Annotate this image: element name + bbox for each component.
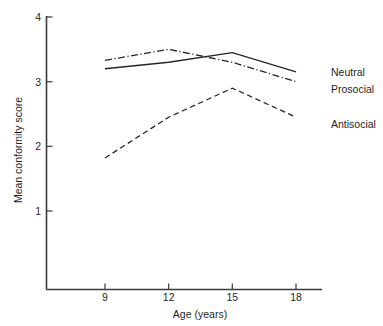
y-tick-label-2: 2 bbox=[35, 140, 41, 152]
x-axis-title: Age (years) bbox=[173, 308, 227, 320]
x-tick-label-9: 9 bbox=[102, 291, 108, 303]
series-group bbox=[105, 49, 296, 158]
legend-label-prosocial: Prosocial bbox=[331, 83, 374, 95]
series-line-antisocial bbox=[105, 88, 296, 158]
x-tick-label-18: 18 bbox=[290, 291, 302, 303]
x-tick-label-12: 12 bbox=[163, 291, 175, 303]
legend-label-antisocial: Antisocial bbox=[331, 118, 376, 130]
x-tick-label-15: 15 bbox=[226, 291, 238, 303]
y-tick-label-4: 4 bbox=[35, 11, 41, 23]
chart-container: 4 3 2 1 9 12 15 18 Age (years) Mean conf… bbox=[0, 0, 383, 326]
legend-label-neutral: Neutral bbox=[331, 66, 365, 78]
y-tick-label-1: 1 bbox=[35, 205, 41, 217]
line-chart: 4 3 2 1 9 12 15 18 Age (years) Mean conf… bbox=[0, 0, 383, 326]
y-tick-label-3: 3 bbox=[35, 76, 41, 88]
legend: Neutral Prosocial Antisocial bbox=[331, 66, 376, 130]
y-axis-title: Mean conformity score bbox=[12, 97, 24, 203]
